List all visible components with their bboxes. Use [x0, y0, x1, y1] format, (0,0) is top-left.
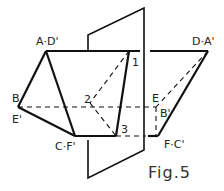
label-b: B	[12, 92, 20, 105]
figure-caption: Fig.5	[148, 163, 191, 182]
label-d-a: D·A'	[192, 35, 215, 48]
label-e: E	[152, 92, 159, 105]
mirror-plane	[88, 8, 144, 178]
label-e-prime: E'	[12, 113, 22, 126]
label-c-f: C·F'	[55, 140, 76, 153]
reflection-diagram: A·D' D·A' B E' E B' C·F' F·C' 1 2 3 Fig.…	[0, 0, 224, 191]
label-point-1: 1	[132, 56, 139, 69]
label-point-2: 2	[84, 93, 91, 106]
label-a-d: A·D'	[36, 35, 59, 48]
label-b-prime: B'	[160, 107, 171, 120]
label-f-c: F·C'	[164, 138, 185, 151]
hidden-lines	[18, 51, 208, 136]
label-point-3: 3	[121, 123, 128, 136]
